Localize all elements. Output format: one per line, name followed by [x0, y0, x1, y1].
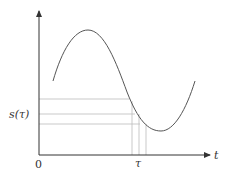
horizontal-guides [39, 99, 140, 124]
diagram-canvas: s(τ) 0 τ t [0, 0, 231, 177]
sinusoid-curve [53, 30, 195, 131]
vertical-guides [132, 101, 146, 155]
origin-label: 0 [35, 158, 42, 171]
y-value-label: s(τ) [9, 108, 29, 121]
tau-label: τ [135, 157, 142, 170]
t-axis-label: t [214, 149, 219, 162]
